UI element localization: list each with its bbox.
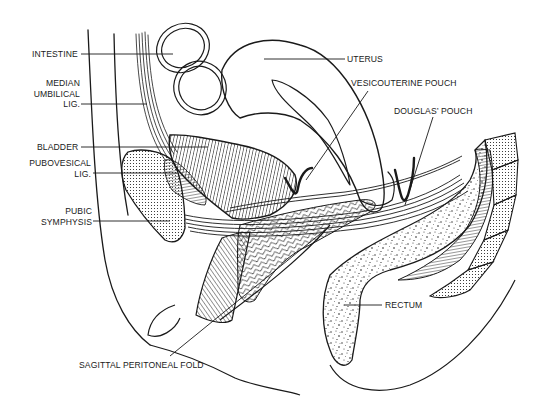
gluteal-outline <box>148 305 180 336</box>
label-douglas-pouch: DOUGLAS’ POUCH <box>394 106 472 117</box>
label-pubic-symphysis: PUBIC SYMPHYSIS <box>38 206 92 227</box>
label-uterus: UTERUS <box>347 54 383 65</box>
label-median-umbilical-lig: MEDIAN UMBILICAL LIG. <box>26 78 80 110</box>
label-bladder: BLADDER <box>37 142 78 153</box>
label-vesicouterine-pouch: VESICOUTERINE POUCH <box>351 78 457 89</box>
label-intestine: INTESTINE <box>32 49 78 60</box>
label-rectum: RECTUM <box>385 300 422 311</box>
anatomical-diagram <box>0 0 544 397</box>
label-sagittal-peritoneal-fold: SAGITTAL PERITONEAL FOLD <box>79 360 204 371</box>
leader-vesicouterine <box>306 91 368 180</box>
label-pubovesical-lig: PUBOVESICAL LIG. <box>27 158 91 179</box>
